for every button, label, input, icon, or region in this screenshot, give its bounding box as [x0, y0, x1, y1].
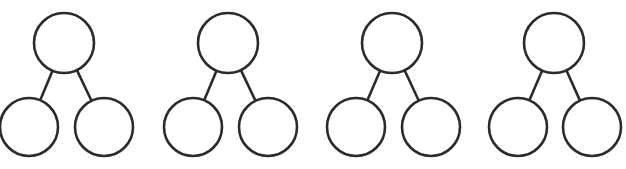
tree-2: [164, 13, 297, 156]
right-child-node: [563, 98, 621, 156]
edge-right: [566, 70, 580, 100]
edge-left: [204, 71, 216, 101]
edge-right: [241, 70, 256, 101]
left-child-node: [489, 98, 547, 156]
edge-left: [529, 71, 542, 101]
left-child-node: [327, 98, 385, 156]
edge-left: [40, 71, 52, 101]
left-child-node: [0, 98, 58, 156]
tree-diagram-canvas: [0, 0, 626, 169]
edge-right: [77, 70, 92, 101]
edge-left: [367, 71, 380, 101]
right-child-node: [402, 98, 460, 156]
tree-4: [489, 13, 621, 156]
right-child-node: [239, 98, 297, 156]
left-child-node: [164, 98, 222, 156]
right-child-node: [75, 98, 133, 156]
tree-3: [327, 13, 460, 156]
parent-node: [198, 13, 258, 73]
tree-1: [0, 13, 133, 156]
parent-node: [362, 13, 422, 73]
edge-right: [405, 70, 419, 101]
parent-node: [524, 13, 584, 73]
parent-node: [34, 13, 94, 73]
